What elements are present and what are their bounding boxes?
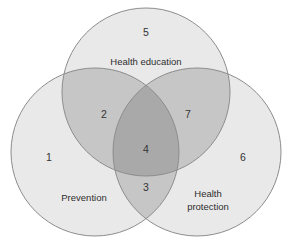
venn-diagram-figure: 1 2 3 4 5 6 7 Health education Preventio… [0,0,293,252]
region-number-3: 3 [143,181,149,193]
set-label-health-protection-line2: protection [187,201,229,212]
region-number-4: 4 [143,143,149,155]
set-label-health-protection-line1: Health [194,188,221,199]
set-label-health-education: Health education [110,56,181,67]
region-number-5: 5 [143,26,149,38]
region-number-7: 7 [185,108,191,120]
set-label-prevention: Prevention [61,192,106,203]
region-number-1: 1 [46,151,52,163]
region-number-6: 6 [240,151,246,163]
venn-diagram-canvas: 1 2 3 4 5 6 7 Health education Preventio… [0,0,293,252]
region-number-2: 2 [101,108,107,120]
